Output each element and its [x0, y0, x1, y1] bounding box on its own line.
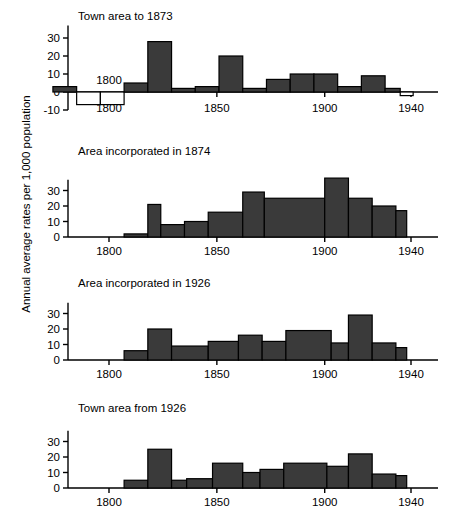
histogram-bar — [327, 466, 349, 488]
y-tick-label: 20 — [47, 323, 60, 335]
histogram-bar — [290, 74, 314, 92]
y-tick-label: 30 — [47, 32, 60, 44]
histogram-bar — [400, 92, 413, 96]
x-tick-label: 1900 — [312, 102, 338, 114]
histogram-bar — [148, 42, 172, 92]
histogram-bar — [124, 83, 148, 92]
histogram-bar — [385, 88, 400, 92]
histogram-bar — [148, 449, 172, 488]
y-tick-label: 0 — [54, 482, 60, 494]
histogram-bar — [348, 454, 372, 488]
x-tick-label: 1940 — [398, 102, 424, 114]
histogram-bar — [124, 234, 148, 237]
y-tick-label: 0 — [54, 354, 60, 366]
histogram-bar — [172, 480, 187, 488]
histogram-bar — [396, 211, 407, 237]
y-tick-label: 10 — [47, 216, 60, 228]
histogram-bar — [219, 56, 243, 92]
histogram-bar — [148, 204, 161, 237]
panel-area-incorporated-1926: Area incorporated in 1926 01020301800185… — [0, 255, 451, 380]
y-tick-label: 20 — [47, 451, 60, 463]
y-tick-label: 10 — [47, 68, 60, 80]
y-tick-label: 30 — [47, 185, 60, 197]
panel-title-3: Town area from 1926 — [78, 402, 186, 414]
y-tick-label: 10 — [47, 339, 60, 351]
histogram-bar — [172, 88, 196, 92]
histogram-bar — [77, 92, 101, 105]
x-tick-label: 1850 — [204, 245, 230, 255]
panel-area-incorporated-1874: Area incorporated in 1874 01020301800185… — [0, 130, 451, 255]
x-tick-label: 1940 — [398, 245, 424, 255]
panel-plot-3: 01020301800185019001940 — [0, 380, 451, 514]
histogram-bar — [284, 463, 327, 488]
histogram-bar — [264, 198, 324, 237]
histogram-bar — [262, 341, 286, 360]
panel-plot-1: 01020301800185019001940 — [0, 130, 451, 255]
histogram-bar — [243, 88, 267, 92]
histogram-bar — [266, 79, 290, 92]
histogram-bar — [396, 348, 407, 360]
histogram-bar — [148, 329, 172, 360]
panel-title-2: Area incorporated in 1926 — [78, 277, 210, 289]
histogram-bar — [100, 92, 124, 105]
y-tick-label: 20 — [47, 200, 60, 212]
y-tick-label: 10 — [47, 467, 60, 479]
histogram-bar — [195, 87, 219, 92]
x-tick-label: 1940 — [398, 496, 424, 508]
histogram-bar — [286, 331, 331, 360]
panel-title-1: Area incorporated in 1874 — [78, 145, 210, 157]
y-tick-label: 20 — [47, 50, 60, 62]
x-tick-label: 1850 — [204, 496, 230, 508]
y-tick-label: 30 — [47, 308, 60, 320]
histogram-bar — [348, 198, 372, 237]
y-tick-label: 30 — [47, 436, 60, 448]
histogram-bar — [213, 463, 243, 488]
histogram-bar — [208, 212, 243, 237]
x-tick-label: 1800 — [96, 245, 122, 255]
x-tick-label: 1850 — [204, 102, 230, 114]
x-tick-label: 1900 — [312, 245, 338, 255]
histogram-bar — [243, 192, 265, 237]
x-tick-label: 1900 — [312, 368, 338, 380]
histogram-bar — [361, 76, 385, 92]
histogram-bar — [396, 476, 407, 488]
panel-plot-0: -10010203018001850190019401800 — [0, 0, 451, 130]
panel-town-area-from-1926: Town area from 1926 01020301800185019001… — [0, 380, 451, 514]
x-tick-label: 1940 — [398, 368, 424, 380]
x-tick-label: 1800 — [96, 368, 122, 380]
panel-town-area-to-1873: Town area to 1873 -100102030180018501900… — [0, 0, 451, 130]
histogram-bar — [238, 335, 262, 360]
histogram-bar — [53, 87, 77, 92]
histogram-bar — [348, 315, 372, 360]
histogram-bar — [208, 341, 238, 360]
panel-plot-2: 01020301800185019001940 — [0, 255, 451, 380]
histogram-bar — [187, 479, 213, 488]
x-tick-label: 1900 — [312, 496, 338, 508]
y-tick-label: -10 — [43, 104, 60, 116]
histogram-bar — [325, 178, 349, 237]
histogram-bar — [243, 473, 260, 489]
histogram-bar — [372, 206, 396, 237]
y-tick-label: 0 — [54, 231, 60, 243]
histogram-bar — [372, 343, 396, 360]
histogram-bar — [161, 225, 185, 237]
histogram-bar — [314, 74, 338, 92]
histogram-bar — [372, 474, 396, 488]
inline-year-annotation: 1800 — [96, 74, 122, 86]
x-tick-label: 1800 — [96, 496, 122, 508]
histogram-bar — [338, 87, 362, 92]
histogram-bar — [172, 346, 209, 360]
histogram-figure: Annual average rates per 1,000 populatio… — [0, 0, 451, 514]
histogram-bar — [124, 480, 148, 488]
histogram-bar — [185, 222, 209, 238]
histogram-bar — [124, 351, 148, 360]
x-tick-label: 1850 — [204, 368, 230, 380]
panel-title-0: Town area to 1873 — [78, 10, 173, 22]
histogram-bar — [331, 343, 348, 360]
histogram-bar — [260, 469, 284, 488]
